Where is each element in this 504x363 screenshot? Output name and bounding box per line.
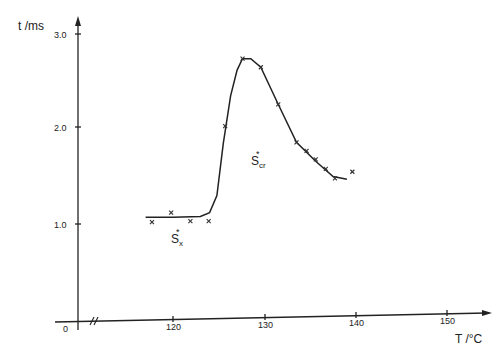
data-point-x-icon (150, 220, 154, 224)
data-point-x-icon (169, 211, 173, 215)
data-point-x-icon (188, 219, 192, 223)
axes (55, 16, 492, 330)
x-axis-arrow-icon (482, 310, 492, 316)
x-tick-150: 150 (440, 316, 455, 326)
y-tick-2: 2.0 (54, 123, 67, 133)
annotation-scr: S * cr (251, 149, 266, 170)
data-markers (150, 57, 354, 224)
x-tick-130: 130 (258, 320, 273, 330)
svg-text:*: * (176, 227, 180, 237)
x-tick-120: 120 (166, 322, 181, 332)
x-tick-0: 0 (63, 324, 68, 334)
data-point-x-icon (350, 170, 354, 174)
svg-text:x: x (179, 239, 183, 248)
y-axis-label: t /ms (18, 19, 44, 33)
y-tick-3: 3.0 (54, 30, 67, 40)
x-tick-140: 140 (349, 318, 364, 328)
svg-text:*: * (256, 149, 260, 159)
data-point-x-icon (207, 219, 211, 223)
y-tick-1: 1.0 (54, 220, 67, 230)
chart: 3.0 2.0 1.0 0 120 130 140 150 t /ms T /°… (0, 0, 504, 363)
annotation-sx: S * x (171, 227, 183, 248)
y-axis-arrow-icon (75, 16, 81, 26)
svg-text:cr: cr (259, 161, 266, 170)
x-axis-label: T /°C (455, 332, 483, 346)
fitted-curve (146, 59, 347, 218)
